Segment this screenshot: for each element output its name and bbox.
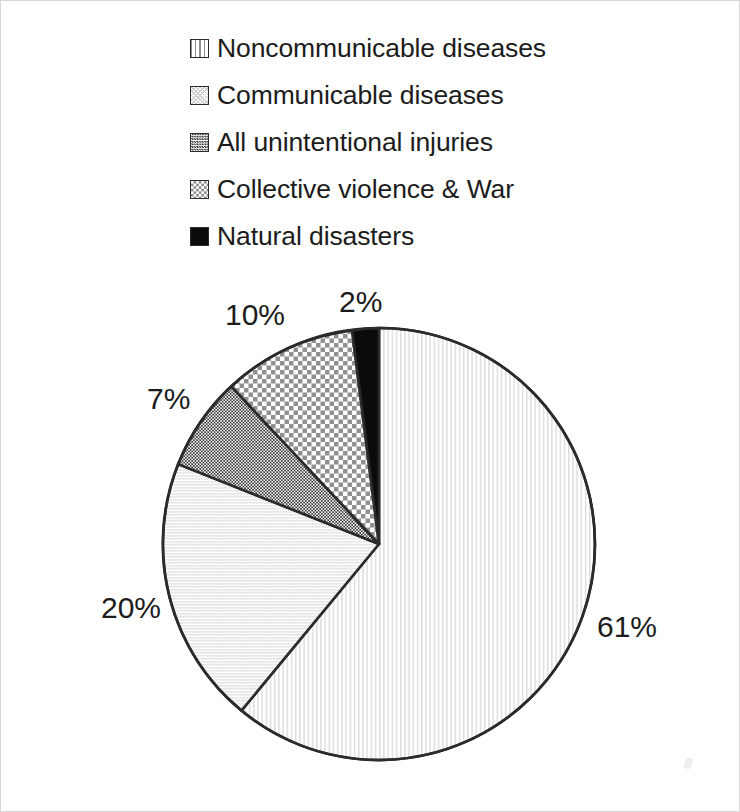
pie-svg (1, 1, 740, 812)
pie-plot-area: 2% 10% 7% 20% 61% (1, 1, 740, 812)
pie-label-collective-violence-and-war: 10% (225, 300, 285, 330)
pie-label-noncommunicable-diseases: 61% (597, 612, 657, 642)
pie-chart-figure: Noncommunicable diseases Communicable di… (0, 0, 740, 812)
pie-label-natural-disasters: 2% (339, 287, 382, 317)
pie-label-all-unintentional-injuries: 7% (147, 384, 190, 414)
pie-label-communicable-diseases: 20% (101, 593, 161, 623)
